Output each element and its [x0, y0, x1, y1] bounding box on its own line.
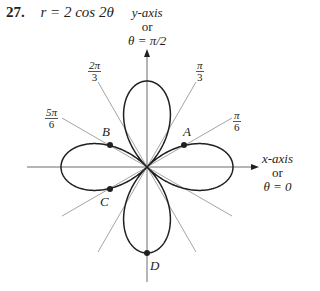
point-b-label: B	[102, 124, 110, 140]
point-c-label: C	[100, 194, 109, 210]
label-2pi-over-3: 2π3	[88, 60, 101, 83]
y-axis-arrow-icon	[144, 49, 150, 57]
point-d-label: D	[150, 258, 159, 274]
label-5pi-over-6: 5π6	[45, 107, 58, 130]
label-pi-over-6: π6	[233, 110, 241, 133]
point-a	[181, 142, 187, 148]
x-axis-arrow-icon	[251, 164, 259, 170]
x-axis-label: x-axis or θ = 0	[262, 152, 293, 194]
label-pi-over-3: π3	[196, 60, 204, 83]
point-d	[144, 250, 150, 256]
point-c	[107, 186, 113, 192]
point-a-label: A	[183, 124, 191, 140]
y-axis-label: y-axis or θ = π/2	[128, 6, 166, 48]
point-b	[107, 142, 113, 148]
